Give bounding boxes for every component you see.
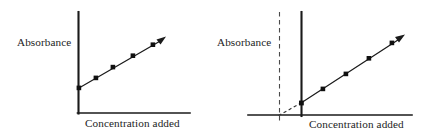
data-point-marker [321, 87, 326, 92]
fitted-line [301, 38, 401, 103]
data-point-marker [299, 101, 304, 106]
data-point-marker [77, 86, 82, 91]
figure-standard-addition: Absorbance Concentration added Absor [0, 0, 425, 137]
panel-calibration-plot: Absorbance Concentration added [0, 0, 213, 137]
data-point-marker [94, 76, 99, 81]
arrow-head-icon [157, 37, 167, 45]
data-point-marker [367, 56, 372, 61]
data-point-marker [390, 41, 395, 46]
data-point-marker [111, 65, 116, 70]
data-point-marker [344, 72, 349, 77]
extrapolation-segment [279, 103, 303, 116]
data-point-marker [131, 53, 136, 58]
standard-addition-plot-graphic [213, 0, 425, 137]
fitted-line [79, 40, 162, 88]
y-axis-label: Absorbance [217, 36, 271, 49]
data-point-marker [151, 42, 156, 47]
x-axis-label: Concentration added [309, 118, 404, 131]
y-axis-label: Absorbance [17, 36, 71, 49]
panel-standard-addition-plot: Absorbance Concentration added [213, 0, 425, 137]
x-axis-label: Concentration added [85, 117, 180, 130]
